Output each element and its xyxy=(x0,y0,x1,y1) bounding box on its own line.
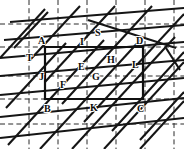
point-label-c: C xyxy=(137,104,144,114)
point-label-i: I xyxy=(80,37,84,47)
point-label-a: A xyxy=(38,36,45,46)
point-label-g: G xyxy=(92,72,100,82)
point-label-s: S xyxy=(95,28,101,38)
point-label-e: E xyxy=(78,62,85,72)
point-label-l: L xyxy=(132,60,139,70)
point-label-h: H xyxy=(107,55,115,65)
lattice-line-d14 xyxy=(140,92,184,140)
point-label-k: K xyxy=(90,103,98,113)
lattice-line-d7 xyxy=(140,101,184,149)
geometry-figure: ASIDTHLEJGFBKC xyxy=(0,0,184,149)
point-label-b: B xyxy=(44,104,51,114)
point-label-d: D xyxy=(136,36,143,46)
lattice-line-s2 xyxy=(4,25,184,40)
point-label-j: J xyxy=(39,72,44,82)
point-label-f: F xyxy=(60,80,66,90)
point-label-t: T xyxy=(26,53,33,63)
